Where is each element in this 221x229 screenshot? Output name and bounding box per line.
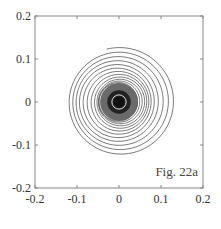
y-tick-label: 0.2 [16,9,31,23]
x-tick-label: -0.1 [68,192,87,206]
x-tick-labels: -0.2-0.100.10.2 [26,192,211,206]
y-tick-label: -0.2 [12,181,31,195]
x-tick-label: 0.1 [154,192,169,206]
y-tick-label: 0 [25,95,31,109]
figure-label: Fig. 22a [155,164,198,179]
x-tick-label: 0 [116,192,122,206]
y-tick-labels: -0.2-0.100.10.2 [12,9,31,195]
y-tick-label: 0.1 [16,52,31,66]
spiral-trajectory [69,48,173,154]
spiral-chart: -0.2-0.100.10.2 -0.2-0.100.10.2 Fig. 22a [0,0,221,229]
y-tick-label: -0.1 [12,138,31,152]
x-tick-label: 0.2 [196,192,211,206]
